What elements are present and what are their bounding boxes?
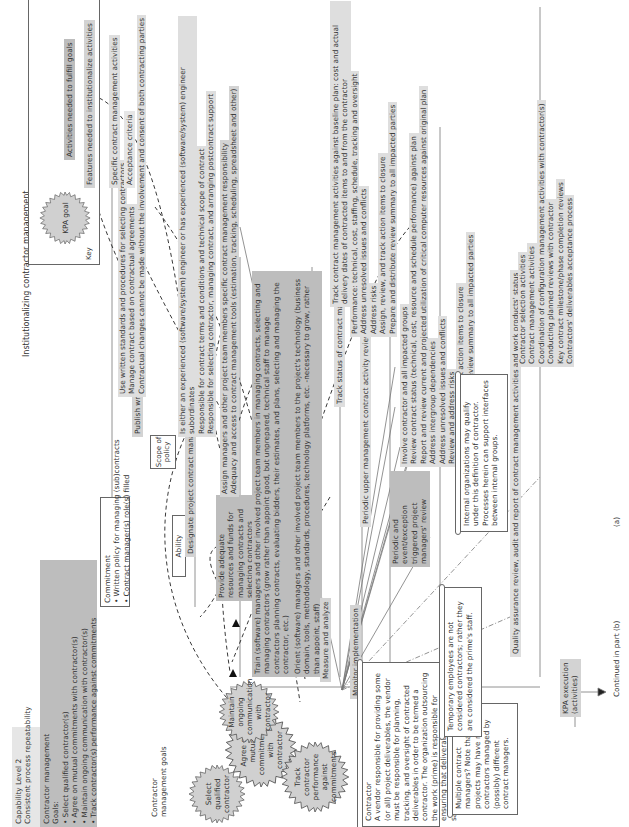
qa-item: Coordination of configuration management…: [537, 100, 546, 367]
rotated-diagram-page: Institutionalizing contractor management…: [0, 0, 629, 827]
commitment-item: Contract manager(s) role(s) filled: [122, 475, 131, 597]
qa-items: Contractor selection activities Contract…: [518, 100, 574, 367]
track-items: Track contract management activities aga…: [330, 1, 351, 307]
legend-item-acceptance: Acceptance criteria: [124, 111, 135, 188]
kpa-name: Contractor management: [42, 563, 51, 824]
resources-item: Assign managers and other project team m…: [220, 140, 229, 497]
legend-key: Key KPA goal Activities needed to fulfil…: [28, 0, 100, 265]
designate-item: Responsible for selecting contractor, ma…: [206, 91, 215, 437]
policy-item: Manage contract based on contractual agr…: [127, 204, 136, 397]
legend-seal: KPA goal: [39, 190, 91, 246]
temporary-employees-note: Temporary employees are not considered c…: [442, 587, 482, 737]
qa-item: Contract management activities: [527, 243, 536, 367]
contractor-definition-note: Contractor A vendor responsible for prov…: [360, 662, 440, 827]
pm-item: Report and review current and projected …: [419, 87, 428, 468]
legend-title: Key: [85, 247, 94, 260]
designate-item: Is either an experienced (software/syste…: [178, 16, 197, 437]
train-activity: Train (software) managers and other invo…: [252, 271, 292, 677]
designate-items: Is either an experienced (software/syste…: [178, 16, 216, 437]
upper-item: Address unresolved issues and conflicts: [359, 186, 368, 337]
resources-item: Adequacy and access to contract manageme…: [229, 86, 238, 497]
pm-item: Address unresolved issues and conflicts: [438, 316, 447, 467]
legend-item-specific: Specific contract management activities: [109, 35, 120, 188]
policy-item: Contractual changes cannot be made witho…: [137, 15, 146, 397]
commitment-box: Commitment • Written policy for managing…: [100, 497, 130, 607]
policy-item: Use written standards and procedures for…: [118, 160, 127, 397]
pm-item: Involve contractor and all impacted grou…: [400, 304, 409, 467]
upper-item: Performance: technical, cost, staffing, …: [350, 71, 359, 337]
qa-item: Key contract milestone/phase completion …: [556, 179, 565, 367]
continued-label: Continued in part (b): [612, 621, 621, 697]
management-goals-label: Contractor management goals: [150, 737, 169, 817]
goals-box: Contractor management Goals: • Select qu…: [40, 560, 97, 827]
qa-item: Contractors' deliverables acceptance pro…: [565, 195, 574, 367]
goal-item: • Track contractor(s) performance agains…: [89, 563, 98, 824]
resources-items: Assign managers and other project team m…: [220, 86, 239, 497]
legend-item-activities: Activities needed to fulfill goals: [64, 39, 75, 160]
ability-box: Ability: [172, 515, 186, 577]
internal-organizations-note: Internal organizations may qualify under…: [458, 374, 508, 532]
pm-item: Address intergroup dependencies: [428, 338, 437, 467]
legend-item-features: Features needed to institutionalize acti…: [84, 20, 95, 188]
commitment-item: Written policy for managing (sub)contrac…: [112, 439, 121, 596]
kpa-execution-label: KPA execution (activities): [560, 659, 581, 717]
periodic-upper-review: Periodic upper management contract activ…: [360, 329, 371, 527]
capability-level: Capability Level 2: [14, 730, 23, 824]
upper-item: Prepare and distribute review summary to…: [388, 102, 397, 337]
periodic-upper-items: Performance: technical, cost, staffing, …: [350, 71, 397, 337]
designate-item: Responsible for contract terms and condi…: [197, 146, 206, 437]
policy-items: Use written standards and procedures for…: [118, 15, 146, 397]
upper-item: Assign, review, and track action items t…: [378, 153, 387, 337]
orient-activity: Orient (software) managers and other inv…: [292, 271, 322, 677]
goal-item: • Select qualified contractor(s): [61, 563, 70, 824]
qa-item: Contractor selection activities: [518, 252, 527, 367]
upper-item: Address risks: [369, 283, 378, 337]
goal-item: • Maintain ongoing communication with co…: [80, 563, 89, 824]
goal-seal-maintain: Maintain ongoing communication with cont…: [218, 680, 280, 744]
capability-subtitle: Consistent process repeatability: [23, 730, 32, 824]
pm-item: Review contract status (technical, cost,…: [409, 133, 418, 467]
scope-of-policy-note: Scope of policy: [150, 435, 176, 469]
goals-label: Goals:: [51, 563, 60, 824]
goal-seal-track: Track contractor performance against com…: [280, 742, 350, 812]
measure-analyze-activity: Measure and analyze: [320, 598, 331, 682]
goal-item: • Agree on mutual commitments with contr…: [70, 563, 79, 824]
part-label: (a): [612, 517, 621, 527]
note-title: Contractor: [364, 668, 373, 821]
periodic-pm-review: Periodic and event/exception triggered p…: [390, 471, 430, 567]
provide-resources-activity: Provide adequate resources and funds for…: [216, 495, 256, 601]
qa-item: Conducting planned reviews with contract…: [546, 199, 555, 367]
commitment-title: Commitment: [103, 501, 112, 603]
